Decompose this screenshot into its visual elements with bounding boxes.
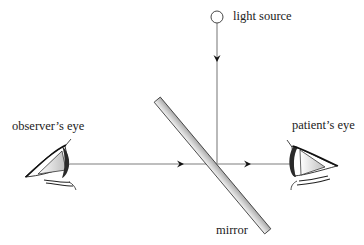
patient-eye-label: patient’s eye — [292, 119, 355, 132]
mirror-label: mirror — [216, 224, 248, 237]
mirror-icon — [154, 97, 271, 234]
observer-eye-label: observer’s eye — [12, 120, 84, 133]
observer-eye-icon — [25, 139, 76, 190]
ophthalmoscope-diagram: light source observer’s eye patient’s ey… — [0, 0, 364, 245]
patient-eye-icon — [287, 140, 338, 190]
light-source-icon — [211, 11, 223, 23]
light-source-label: light source — [233, 10, 292, 23]
